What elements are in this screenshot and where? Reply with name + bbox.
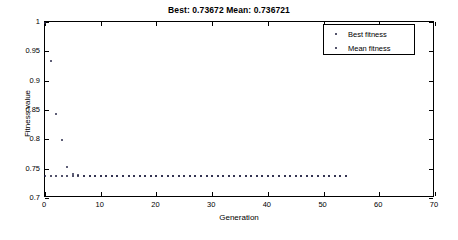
y-axis-tick [429, 81, 433, 82]
y-tick-label: 0.7 [30, 193, 40, 202]
data-point [311, 175, 313, 177]
y-axis-tick [45, 51, 49, 52]
data-point [278, 175, 280, 177]
data-point [239, 175, 241, 177]
x-axis-tick [435, 22, 436, 26]
data-point [111, 175, 113, 177]
data-point [167, 175, 169, 177]
data-point [295, 175, 297, 177]
y-axis-tick [45, 198, 49, 199]
data-point [300, 175, 302, 177]
x-tick-label: 50 [318, 200, 326, 209]
data-point [100, 175, 102, 177]
data-point [144, 175, 146, 177]
x-tick-label: 0 [42, 200, 46, 209]
data-point [77, 174, 79, 176]
legend-label: Mean fitness [348, 44, 391, 53]
data-point [83, 175, 85, 177]
x-axis-tick [101, 192, 102, 196]
legend-label: Best fitness [348, 30, 387, 39]
data-point [189, 175, 191, 177]
data-point [217, 175, 219, 177]
y-axis-tick [429, 198, 433, 199]
data-point [133, 175, 135, 177]
data-point [122, 175, 124, 177]
x-tick-label: 60 [374, 200, 382, 209]
data-point [128, 175, 130, 177]
data-point [222, 175, 224, 177]
data-point [55, 113, 57, 115]
data-point [323, 175, 325, 177]
data-point [211, 175, 213, 177]
data-point [61, 139, 63, 141]
data-point [105, 175, 107, 177]
data-point [50, 60, 52, 62]
y-tick-label: 1 [36, 17, 40, 26]
data-point [306, 175, 308, 177]
data-point [339, 175, 341, 177]
legend-marker-dot-icon [335, 33, 337, 35]
y-axis-tick [45, 110, 49, 111]
data-point [44, 175, 46, 177]
chart-title: Best: 0.73672 Mean: 0.736721 [0, 5, 458, 15]
data-point [66, 166, 68, 168]
data-point [272, 175, 274, 177]
y-axis-tick [45, 169, 49, 170]
data-point [139, 175, 141, 177]
data-point [345, 175, 347, 177]
legend-marker-dot-icon [335, 47, 337, 49]
data-point [61, 175, 63, 177]
x-axis-tick [379, 192, 380, 196]
y-axis-tick [429, 51, 433, 52]
data-point [328, 175, 330, 177]
data-point [233, 175, 235, 177]
data-point [256, 175, 258, 177]
data-point [55, 175, 57, 177]
data-point [194, 175, 196, 177]
data-point [150, 175, 152, 177]
data-point [72, 175, 74, 177]
data-point [66, 175, 68, 177]
x-axis-tick [212, 22, 213, 26]
x-axis-tick [101, 22, 102, 26]
data-point [89, 175, 91, 177]
data-point [161, 175, 163, 177]
figure-canvas: Best: 0.73672 Mean: 0.736721 01020304050… [0, 0, 458, 240]
x-axis-tick [268, 22, 269, 26]
x-axis-tick [156, 22, 157, 26]
y-axis-tick [429, 169, 433, 170]
y-axis-tick [45, 139, 49, 140]
legend-item-mean-fitness: Mean fitness [324, 41, 416, 55]
data-point [261, 175, 263, 177]
data-point [116, 175, 118, 177]
x-tick-label: 10 [96, 200, 104, 209]
data-point [183, 175, 185, 177]
data-point [334, 175, 336, 177]
x-axis-tick [212, 192, 213, 196]
data-point [94, 175, 96, 177]
x-axis-tick [324, 192, 325, 196]
data-point [72, 173, 74, 175]
y-axis-tick [429, 22, 433, 23]
x-tick-label: 40 [263, 200, 271, 209]
data-point [50, 175, 52, 177]
legend-box: Best fitness Mean fitness [323, 24, 415, 55]
x-axis-title: Generation [44, 213, 434, 222]
x-tick-label: 30 [207, 200, 215, 209]
data-point [284, 175, 286, 177]
x-axis-tick [435, 192, 436, 196]
data-point [228, 175, 230, 177]
y-axis-title: Fitness value [23, 54, 32, 174]
data-point [289, 175, 291, 177]
data-point [206, 175, 208, 177]
x-axis-tick [45, 192, 46, 196]
data-point [200, 175, 202, 177]
data-point [317, 175, 319, 177]
x-tick-label: 20 [151, 200, 159, 209]
x-tick-label: 70 [430, 200, 438, 209]
y-axis-tick [429, 110, 433, 111]
data-point [178, 175, 180, 177]
data-point [155, 175, 157, 177]
data-point [250, 175, 252, 177]
data-point [245, 175, 247, 177]
